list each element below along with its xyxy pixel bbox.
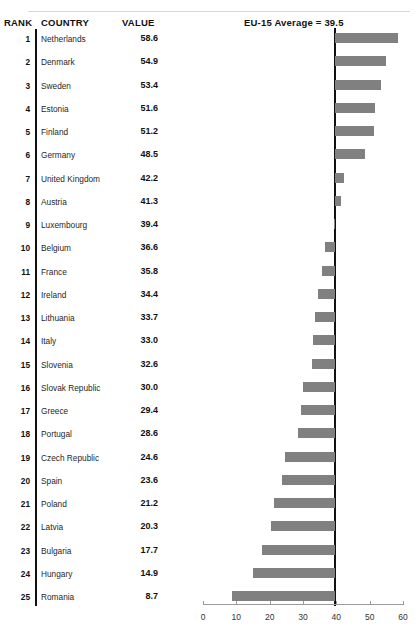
row-country: Portugal [41, 429, 72, 440]
row-country: Denmark [41, 57, 75, 68]
row-value: 17.7 [122, 545, 158, 556]
row-value: 34.4 [122, 289, 158, 300]
row-rank: 10 [4, 243, 30, 254]
row-country: Netherlands [41, 34, 86, 45]
row-country: Ireland [41, 290, 66, 301]
row-rank: 16 [4, 383, 30, 394]
x-axis-tick-label: 60 [398, 612, 407, 622]
row-country: Sweden [41, 81, 71, 92]
row-rank: 17 [4, 406, 30, 417]
table-row: 20Spain23.6 [0, 471, 418, 494]
table-row: 14Italy33.0 [0, 331, 418, 354]
row-rank: 24 [4, 569, 30, 580]
table-row: 11France35.8 [0, 262, 418, 285]
column-header-rank: RANK [4, 17, 32, 28]
row-value: 33.0 [122, 335, 158, 346]
row-rank: 25 [4, 592, 30, 603]
row-country: United Kingdom [41, 174, 100, 185]
table-row: 21Poland21.2 [0, 494, 418, 517]
x-axis-tick [403, 601, 404, 605]
row-country: Lithuania [41, 313, 75, 324]
row-value: 42.2 [122, 173, 158, 184]
row-country: Latvia [41, 522, 63, 533]
header-rule [28, 11, 410, 12]
row-country: Spain [41, 476, 62, 487]
row-value: 41.3 [122, 196, 158, 207]
row-country: Poland [41, 499, 67, 510]
row-country: Luxembourg [41, 220, 87, 231]
row-country: Romania [41, 592, 74, 603]
row-country: Austria [41, 197, 67, 208]
row-value: 35.8 [122, 266, 158, 277]
row-country: Finland [41, 127, 68, 138]
table-row: 6Germany48.5 [0, 145, 418, 168]
table-row: 18Portugal28.6 [0, 424, 418, 447]
x-axis-tick [336, 601, 337, 605]
row-rank: 7 [4, 174, 30, 185]
row-rank: 21 [4, 499, 30, 510]
row-country: France [41, 267, 67, 278]
table-row: 4Estonia51.6 [0, 99, 418, 122]
row-rank: 3 [4, 81, 30, 92]
row-rank: 18 [4, 429, 30, 440]
table-row: 10Belgium36.6 [0, 238, 418, 261]
row-country: Czech Republic [41, 453, 99, 464]
x-axis-tick-label: 10 [232, 612, 241, 622]
row-value: 23.6 [122, 475, 158, 486]
x-axis-tick [270, 601, 271, 605]
x-axis-tick [236, 601, 237, 605]
row-rank: 23 [4, 546, 30, 557]
x-axis-tick-label: 0 [201, 612, 206, 622]
row-value: 53.4 [122, 80, 158, 91]
row-rank: 22 [4, 522, 30, 533]
row-value: 36.6 [122, 242, 158, 253]
row-rank: 20 [4, 476, 30, 487]
row-country: Greece [41, 406, 68, 417]
row-value: 58.6 [122, 33, 158, 44]
row-country: Slovak Republic [41, 383, 101, 394]
table-row: 8Austria41.3 [0, 192, 418, 215]
table-row: 3Sweden53.4 [0, 76, 418, 99]
table-row: 7United Kingdom42.2 [0, 169, 418, 192]
row-value: 28.6 [122, 428, 158, 439]
row-value: 24.6 [122, 452, 158, 463]
table-row: 24Hungary14.9 [0, 564, 418, 587]
x-axis-tick [203, 601, 204, 605]
table-row: 16Slovak Republic30.0 [0, 378, 418, 401]
row-country: Italy [41, 336, 56, 347]
x-axis-tick [370, 601, 371, 605]
row-rank: 14 [4, 336, 30, 347]
row-rank: 19 [4, 453, 30, 464]
row-value: 14.9 [122, 568, 158, 579]
row-country: Belgium [41, 243, 71, 254]
row-value: 20.3 [122, 521, 158, 532]
table-row: 19Czech Republic24.6 [0, 448, 418, 471]
row-rank: 12 [4, 290, 30, 301]
row-value: 21.2 [122, 498, 158, 509]
table-row: 1Netherlands58.6 [0, 29, 418, 52]
row-rank: 1 [4, 34, 30, 45]
row-rank: 4 [4, 104, 30, 115]
row-country: Slovenia [41, 360, 73, 371]
x-axis-tick-label: 20 [265, 612, 274, 622]
table-row: 12Ireland34.4 [0, 285, 418, 308]
row-value: 39.4 [122, 219, 158, 230]
row-rank: 11 [4, 267, 30, 278]
row-value: 51.2 [122, 126, 158, 137]
row-value: 8.7 [122, 591, 158, 602]
table-row: 15Slovenia32.6 [0, 355, 418, 378]
x-axis-tick [303, 601, 304, 605]
x-axis-tick-label: 30 [298, 612, 307, 622]
row-value: 33.7 [122, 312, 158, 323]
row-rank: 6 [4, 150, 30, 161]
row-rank: 13 [4, 313, 30, 324]
column-header-value: VALUE [122, 17, 155, 28]
row-country: Germany [41, 150, 75, 161]
row-rank: 2 [4, 57, 30, 68]
row-rank: 8 [4, 197, 30, 208]
row-value: 48.5 [122, 149, 158, 160]
row-country: Bulgaria [41, 546, 71, 557]
row-rank: 9 [4, 220, 30, 231]
table-row: 22Latvia20.3 [0, 517, 418, 540]
row-value: 30.0 [122, 382, 158, 393]
